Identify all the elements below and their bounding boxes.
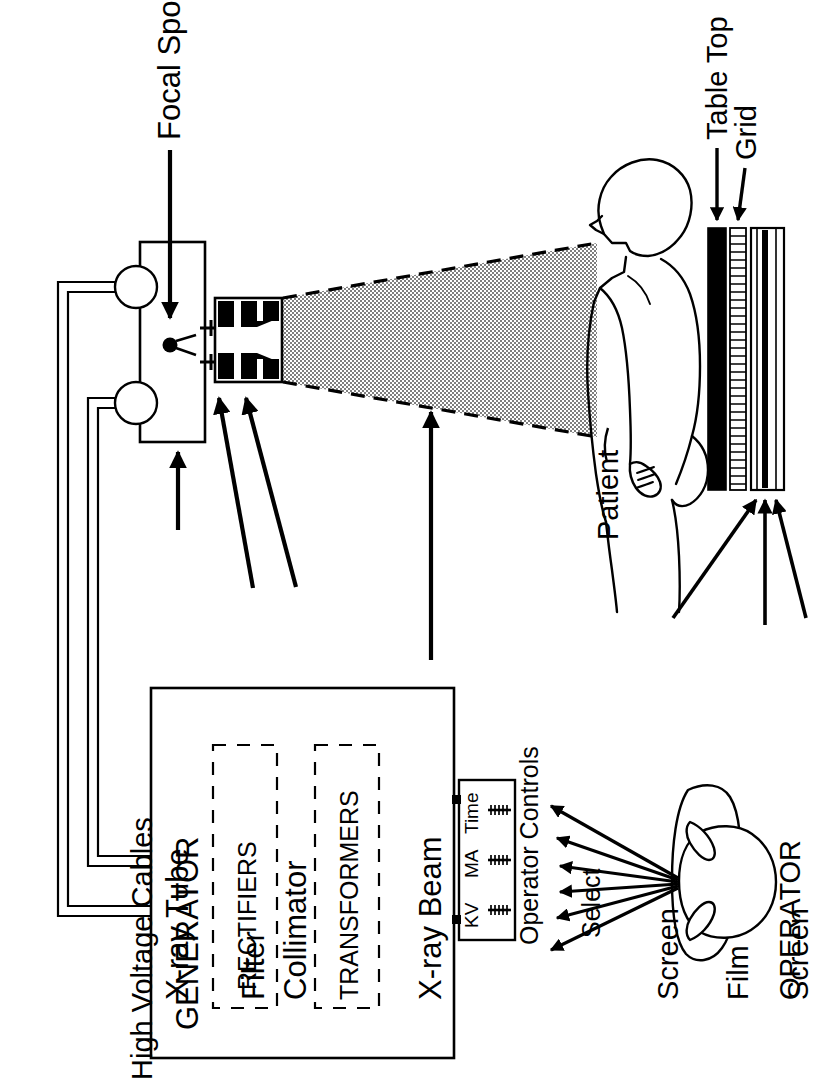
label-high-voltage-cables: High Voltage Cables [126,817,158,1080]
label-select: Select [577,868,605,938]
grid-layer [730,228,746,490]
xray-system-diagram: Focal Spot High Voltage Cables X-ray Tub… [0,0,817,1091]
label-rectifiers: RECTIFIERS [233,841,261,990]
film-layer [762,230,768,488]
label-patient: Patient [592,450,624,540]
dial-kv[interactable] [488,905,511,915]
table-top-layer [708,228,726,490]
label-dial-kv: KV [461,902,482,928]
image-receptor-stack [708,228,784,490]
label-transformers: TRANSFORMERS [335,790,363,1000]
focal-spot-marker [163,338,178,353]
dial-time[interactable] [488,805,511,815]
label-collimator: Collimator [278,860,313,1000]
label-operator: OPERATOR [774,840,806,1000]
label-operator-controls: Operator Controls [515,746,543,945]
label-table-top: Table Top [701,16,733,140]
label-screen-top: Screen [652,908,684,1000]
label-dial-time: Time [461,792,482,834]
label-dial-ma: MA [461,849,482,878]
collimator-assembly [215,298,282,382]
label-focal-spot: Focal Spot [152,0,187,140]
label-xray-beam: X-ray Beam [413,836,448,1000]
cassette-layer [751,228,784,490]
cable-port-upper [115,266,157,308]
cable-port-lower [115,382,157,424]
label-film: Film [722,945,754,1000]
dial-ma[interactable] [488,855,511,865]
figure-canvas: Focal Spot High Voltage Cables X-ray Tub… [0,0,817,1091]
label-generator: GENERATOR [170,837,205,1031]
label-grid: Grid [730,105,762,160]
